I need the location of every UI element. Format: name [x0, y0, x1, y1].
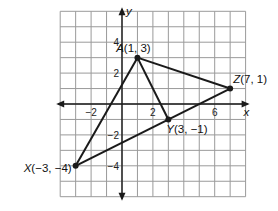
y-tick-label: −2 — [108, 130, 120, 141]
point-y-dot — [165, 116, 171, 122]
point-y-label: Y(3, −1) — [166, 123, 207, 135]
coordinate-plane: xy −22642−2−4 A(1, 3)Z(7, 1)Y(3, −1)X(−3… — [0, 0, 278, 211]
point-a-dot — [134, 55, 140, 61]
point-z-dot — [227, 86, 233, 92]
point-z-label: Z(7, 1) — [232, 73, 267, 85]
point-x-dot — [73, 163, 79, 169]
point-x-label: X(−3, −4) — [23, 162, 72, 174]
point-a-label: A(1, 3) — [115, 42, 151, 54]
x-tick-label: −2 — [85, 107, 97, 118]
point-coordinates: (1, 3) — [124, 42, 151, 54]
x-tick-label: 6 — [212, 107, 218, 118]
y-tick-label: −4 — [108, 161, 120, 172]
point-coordinates: (7, 1) — [240, 73, 267, 85]
x-tick-label: 2 — [150, 107, 156, 118]
x-axis-label: x — [243, 106, 251, 118]
point-name: A — [115, 42, 124, 54]
y-tick-label: 2 — [113, 68, 119, 79]
point-coordinates: (−3, −4) — [31, 162, 71, 174]
point-coordinates: (3, −1) — [174, 123, 208, 135]
axes: xy — [56, 5, 250, 200]
